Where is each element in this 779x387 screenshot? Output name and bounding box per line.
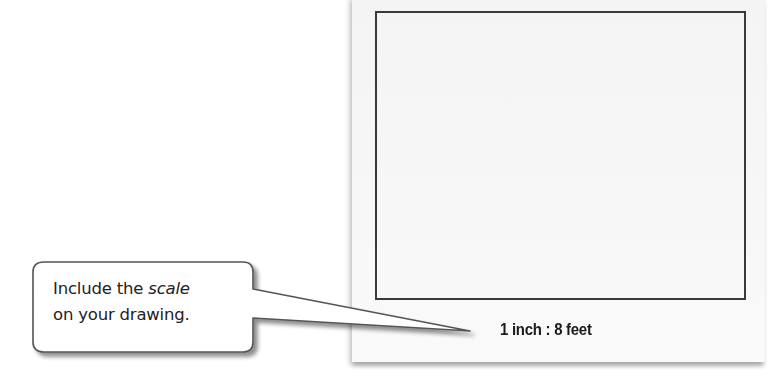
drawing-frame: [375, 11, 746, 300]
callout-text: Include the scale on your drawing.: [53, 276, 243, 328]
callout-line-1: Include the scale: [53, 276, 243, 302]
scale-label: 1 inch : 8 feet: [500, 320, 592, 340]
page: 1 inch : 8 feet Include the scale on you…: [0, 0, 779, 387]
callout-emphasis: scale: [148, 279, 190, 298]
callout-line-2: on your drawing.: [53, 302, 243, 328]
paper-sheet: 1 inch : 8 feet: [352, 0, 765, 362]
